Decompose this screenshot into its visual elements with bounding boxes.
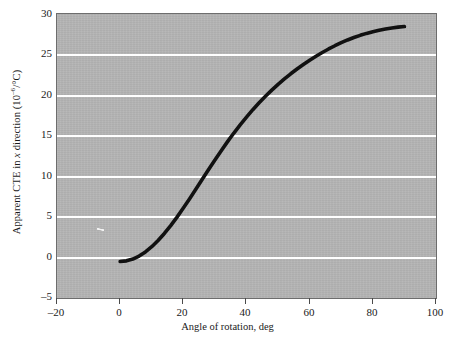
y-tick-label: 25 xyxy=(26,48,52,59)
y-axis-title-italic-x: x xyxy=(11,153,22,158)
x-tick-mark xyxy=(182,298,183,304)
plot-area xyxy=(56,13,437,299)
series-line-apparent-cte xyxy=(120,27,404,262)
y-tick-label: 15 xyxy=(26,129,52,140)
x-tick-label: 0 xyxy=(116,306,122,318)
y-tick-label: 30 xyxy=(26,8,52,19)
x-tick-label: 100 xyxy=(427,306,444,318)
data-curve-svg xyxy=(57,14,436,298)
x-tick-label: 40 xyxy=(240,306,251,318)
x-tick-mark xyxy=(372,298,373,304)
y-axis-title-prefix: Apparent CTE in xyxy=(11,158,22,235)
x-tick-label: 60 xyxy=(304,306,315,318)
y-tick-label: 20 xyxy=(26,89,52,100)
y-axis-title-exponent: –6 xyxy=(9,88,17,95)
figure: Apparent CTE in x direction (10–6/°C) 30… xyxy=(0,0,455,346)
x-tick-mark xyxy=(56,298,57,304)
x-axis-title: Angle of rotation, deg xyxy=(0,321,455,333)
x-tick-label: 80 xyxy=(367,306,378,318)
y-axis-title-suffix: /°C) xyxy=(11,70,22,88)
x-tick-label: 20 xyxy=(177,306,188,318)
y-axis-title: Apparent CTE in x direction (10–6/°C) xyxy=(4,2,22,302)
x-tick-label: –20 xyxy=(48,306,65,318)
y-axis-tick-labels: 30 25 20 15 10 5 0 –5 xyxy=(26,0,52,346)
y-tick-label: 10 xyxy=(26,170,52,181)
y-tick-label: 0 xyxy=(26,251,52,262)
y-axis-title-middle: direction (10 xyxy=(11,95,22,153)
y-tick-label: 5 xyxy=(26,210,52,221)
x-tick-mark xyxy=(435,298,436,304)
x-tick-mark xyxy=(119,298,120,304)
x-tick-mark xyxy=(245,298,246,304)
x-tick-mark xyxy=(309,298,310,304)
